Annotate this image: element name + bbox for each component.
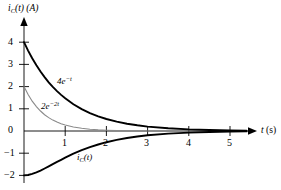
curve-label-4exp-exponent: −t xyxy=(66,75,72,82)
y-tick-label-1: 1 xyxy=(8,102,13,113)
curve-ic-t xyxy=(24,131,247,175)
x-axis-arrow-icon xyxy=(248,127,257,134)
y-tick-label-3: 3 xyxy=(8,58,13,69)
x-tick-label-5: 5 xyxy=(227,137,232,148)
curve-label-ic-rest: (t) xyxy=(84,152,93,162)
x-tick-label-1: 1 xyxy=(62,137,67,148)
curve-label-4exp-base: 4e xyxy=(57,76,66,86)
y-tick-label-0: 0 xyxy=(8,124,13,135)
x-axis-title: t (s) xyxy=(261,125,276,135)
x-tick-label-3: 3 xyxy=(144,137,149,148)
figure-container: iC(t) (A) t (s) 4 3 2 1 0 −1 −2 1 2 3 4 … xyxy=(0,0,281,190)
plot-canvas xyxy=(0,0,281,190)
curve-label-4exp-negt: 4e−t xyxy=(57,75,72,86)
y-axis-title: iC(t) (A) xyxy=(8,3,38,14)
y-tick-label-neg1: −1 xyxy=(4,147,15,158)
y-axis-arrow-icon xyxy=(20,17,27,26)
x-tick-label-4: 4 xyxy=(186,137,191,148)
x-axis-title-rest: (s) xyxy=(264,125,276,135)
curve-label-2exp-exponent: −2t xyxy=(50,100,59,107)
curve-label-2exp-base: 2e xyxy=(41,101,50,111)
curve-4exp-negt xyxy=(24,42,247,130)
x-tick-label-2: 2 xyxy=(103,137,108,148)
y-tick-label-2: 2 xyxy=(8,80,13,91)
y-tick-label-neg2: −2 xyxy=(4,169,15,180)
curve-label-2exp-neg2t: 2e−2t xyxy=(41,100,59,111)
y-axis-title-rest: (t) (A) xyxy=(15,3,38,13)
y-tick-label-4: 4 xyxy=(8,36,13,47)
curve-label-ic-t: iC(t) xyxy=(77,152,92,163)
